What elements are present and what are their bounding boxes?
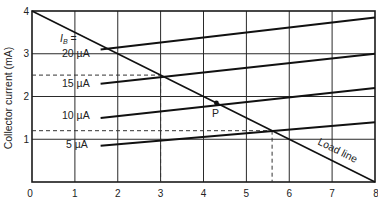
svg-text:8: 8 bbox=[373, 188, 378, 199]
svg-text:0: 0 bbox=[27, 188, 33, 199]
svg-text:2: 2 bbox=[23, 91, 29, 102]
point-label: P bbox=[212, 107, 219, 119]
x-tick-labels: 0 1 2 3 4 5 6 7 8 bbox=[27, 188, 378, 199]
y-tick-labels: 4 3 2 1 bbox=[23, 6, 29, 145]
label-20uA: 20 µA bbox=[62, 47, 90, 59]
svg-text:7: 7 bbox=[329, 188, 335, 199]
curve-15uA bbox=[101, 54, 375, 84]
svg-text:3: 3 bbox=[23, 48, 29, 59]
label-15uA: 15 µA bbox=[62, 77, 90, 89]
label-10uA: 10 µA bbox=[62, 109, 90, 121]
svg-text:1: 1 bbox=[72, 188, 78, 199]
label-5uA: 5 µA bbox=[66, 138, 88, 150]
transistor-characteristics-chart: Collector current (mA) P IB = 20 µA bbox=[0, 0, 378, 203]
ib-eq: = bbox=[68, 32, 77, 44]
y-axis-label: Collector current (mA) bbox=[2, 47, 14, 150]
svg-text:3: 3 bbox=[158, 188, 164, 199]
svg-text:4: 4 bbox=[23, 6, 29, 17]
operating-point-p bbox=[214, 101, 219, 106]
curve-20uA bbox=[101, 17, 375, 49]
svg-text:2: 2 bbox=[115, 188, 121, 199]
svg-text:1: 1 bbox=[23, 134, 29, 145]
ib-legend-title: IB = bbox=[60, 32, 77, 45]
ib-curves bbox=[101, 17, 375, 145]
svg-text:6: 6 bbox=[286, 188, 292, 199]
svg-text:5: 5 bbox=[244, 188, 250, 199]
dashed-guides bbox=[32, 75, 272, 182]
svg-text:4: 4 bbox=[201, 188, 207, 199]
